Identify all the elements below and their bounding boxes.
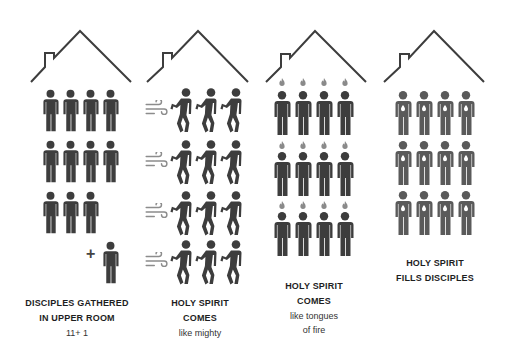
panel-holy-spirit-fire: HOLY SPIRIT COMES like tongues of fire bbox=[262, 0, 382, 342]
person-icon bbox=[315, 151, 333, 197]
caption-subtitle: 11+ 1 bbox=[18, 326, 136, 340]
caption-title-line2: COMES bbox=[140, 311, 260, 326]
person-icon bbox=[82, 190, 99, 235]
flame-icon bbox=[279, 201, 285, 210]
falling-person-icon bbox=[170, 88, 194, 134]
falling-person-icon bbox=[170, 240, 194, 286]
flame-icon bbox=[279, 78, 285, 87]
falling-person-icon bbox=[220, 191, 244, 237]
person-icon bbox=[273, 90, 291, 136]
house-icon bbox=[262, 0, 382, 90]
house-icon bbox=[0, 0, 135, 90]
wind-icon bbox=[145, 100, 169, 118]
falling-person-icon bbox=[195, 140, 219, 186]
caption-title-line2: COMES bbox=[254, 294, 374, 309]
person-icon bbox=[62, 88, 79, 133]
person-icon bbox=[42, 88, 59, 133]
flame-icon bbox=[300, 201, 306, 210]
flame-icon bbox=[321, 201, 327, 210]
flame-icon bbox=[321, 141, 327, 150]
caption-title: HOLY SPIRIT bbox=[375, 256, 495, 271]
person-icon bbox=[62, 139, 79, 184]
person-icon bbox=[42, 139, 59, 184]
caption-subtitle: like mighty bbox=[140, 326, 260, 340]
person-filled-icon bbox=[436, 140, 454, 186]
flame-icon bbox=[300, 78, 306, 87]
person-filled-icon bbox=[415, 190, 433, 236]
person-filled-icon bbox=[436, 190, 454, 236]
person-icon bbox=[273, 151, 291, 197]
caption-title-line2: IN UPPER ROOM bbox=[18, 311, 136, 326]
flame-icon bbox=[342, 141, 348, 150]
person-icon bbox=[82, 88, 99, 133]
person-icon bbox=[273, 211, 291, 257]
person-icon bbox=[294, 90, 312, 136]
caption-subtitle-line2: of fire bbox=[254, 323, 374, 337]
flame-icon bbox=[279, 141, 285, 150]
falling-person-icon bbox=[195, 240, 219, 286]
wind-icon bbox=[145, 152, 169, 170]
panel-holy-spirit-wind: HOLY SPIRIT COMES like mighty bbox=[140, 0, 260, 342]
plus-icon: + bbox=[86, 245, 95, 263]
person-icon bbox=[62, 190, 79, 235]
person-icon bbox=[82, 139, 99, 184]
person-filled-icon bbox=[394, 140, 412, 186]
caption-disciples-gathered: DISCIPLES GATHERED IN UPPER ROOM 11+ 1 bbox=[18, 296, 136, 340]
person-filled-icon bbox=[457, 190, 475, 236]
person-filled-icon bbox=[436, 90, 454, 136]
wind-icon bbox=[145, 252, 169, 270]
flame-icon bbox=[342, 78, 348, 87]
house-icon bbox=[140, 0, 260, 90]
person-icon bbox=[315, 211, 333, 257]
person-icon bbox=[336, 211, 354, 257]
person-icon bbox=[336, 90, 354, 136]
person-filled-icon bbox=[415, 140, 433, 186]
falling-person-icon bbox=[195, 191, 219, 237]
person-filled-icon bbox=[457, 140, 475, 186]
flame-icon bbox=[321, 78, 327, 87]
panel-holy-spirit-fills: HOLY SPIRIT FILLS DISCIPLES bbox=[380, 0, 507, 342]
falling-person-icon bbox=[170, 191, 194, 237]
falling-person-icon bbox=[170, 140, 194, 186]
person-filled-icon bbox=[394, 90, 412, 136]
person-icon bbox=[336, 151, 354, 197]
house-icon bbox=[380, 0, 507, 90]
person-filled-icon bbox=[457, 90, 475, 136]
person-filled-icon bbox=[394, 190, 412, 236]
caption-title: DISCIPLES GATHERED bbox=[18, 296, 136, 311]
person-filled-icon bbox=[415, 90, 433, 136]
panel-disciples-gathered: + DISCIPLES GATHERED IN UPPER ROOM 11+ 1 bbox=[0, 0, 130, 342]
falling-person-icon bbox=[220, 140, 244, 186]
falling-person-icon bbox=[220, 240, 244, 286]
person-icon-added bbox=[102, 240, 119, 285]
caption-holy-spirit-fire: HOLY SPIRIT COMES like tongues of fire bbox=[254, 279, 374, 337]
person-icon bbox=[102, 88, 119, 133]
caption-title: HOLY SPIRIT bbox=[254, 279, 374, 294]
caption-holy-spirit-wind: HOLY SPIRIT COMES like mighty bbox=[140, 296, 260, 340]
wind-icon bbox=[145, 203, 169, 221]
person-icon bbox=[294, 151, 312, 197]
person-icon bbox=[42, 190, 59, 235]
person-icon bbox=[315, 90, 333, 136]
caption-holy-spirit-fills: HOLY SPIRIT FILLS DISCIPLES bbox=[375, 256, 495, 286]
falling-person-icon bbox=[220, 88, 244, 134]
caption-subtitle: like tongues bbox=[254, 309, 374, 323]
caption-title: HOLY SPIRIT bbox=[140, 296, 260, 311]
falling-person-icon bbox=[195, 88, 219, 134]
flame-icon bbox=[300, 141, 306, 150]
flame-icon bbox=[342, 201, 348, 210]
caption-title-line2: FILLS DISCIPLES bbox=[375, 271, 495, 286]
person-icon bbox=[102, 139, 119, 184]
person-icon bbox=[294, 211, 312, 257]
